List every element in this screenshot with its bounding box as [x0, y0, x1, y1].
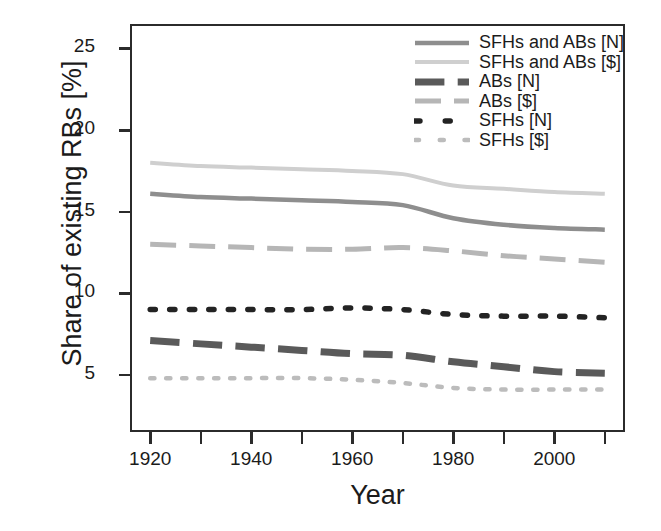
x-tick-label: 1920 — [110, 448, 190, 470]
x-tick-mark-2000 — [553, 432, 556, 444]
legend-label: SFHs [N] — [479, 111, 552, 131]
legend-item-1[interactable]: SFHs and ABs [$] — [414, 53, 624, 73]
x-tick-mark-1970 — [402, 432, 405, 444]
x-tick-mark-1930 — [200, 432, 203, 444]
y-tick-mark — [119, 129, 130, 132]
y-tick-label: 25 — [53, 35, 95, 57]
x-tick-mark-1980 — [452, 432, 455, 444]
legend-swatch-icon — [414, 55, 470, 69]
x-tick-mark-2010 — [604, 432, 607, 444]
series-line-5 — [150, 378, 605, 390]
legend-item-5[interactable]: SFHs [$] — [414, 131, 624, 151]
x-tick-mark-1940 — [250, 432, 253, 444]
y-tick-label: 15 — [53, 199, 95, 221]
legend-item-3[interactable]: ABs [$] — [414, 92, 624, 112]
legend-label: SFHs and ABs [N] — [479, 33, 624, 53]
legend-item-2[interactable]: ABs [N] — [414, 72, 624, 92]
x-tick-mark-1960 — [351, 432, 354, 444]
y-tick-mark — [119, 211, 130, 214]
x-tick-mark-1990 — [503, 432, 506, 444]
legend-item-0[interactable]: SFHs and ABs [N] — [414, 33, 624, 53]
x-tick-mark-1950 — [301, 432, 304, 444]
legend-swatch-icon — [414, 36, 470, 50]
y-tick-label: 20 — [53, 117, 95, 139]
x-tick-label: 1940 — [211, 448, 291, 470]
series-line-2 — [150, 341, 605, 374]
y-tick-mark — [119, 292, 130, 295]
chart-figure: Share of existing RBs [%] 510152025 1920… — [0, 0, 661, 531]
legend-swatch-icon — [414, 75, 470, 89]
y-tick-mark — [119, 374, 130, 377]
y-tick-label: 5 — [53, 362, 95, 384]
legend-label: SFHs [$] — [479, 131, 549, 151]
chart-legend: SFHs and ABs [N]SFHs and ABs [$]ABs [N]A… — [414, 33, 624, 150]
x-tick-label: 1980 — [413, 448, 493, 470]
legend-swatch-icon — [414, 94, 470, 108]
series-line-3 — [150, 244, 605, 262]
legend-label: ABs [$] — [479, 92, 537, 112]
series-line-0 — [150, 194, 605, 230]
legend-label: SFHs and ABs [$] — [479, 53, 621, 73]
x-tick-label: 1960 — [312, 448, 392, 470]
legend-swatch-icon — [414, 114, 470, 128]
x-tick-mark-1920 — [149, 432, 152, 444]
series-line-4 — [150, 308, 605, 318]
legend-label: ABs [N] — [479, 72, 540, 92]
y-tick-mark — [119, 47, 130, 50]
legend-item-4[interactable]: SFHs [N] — [414, 111, 624, 131]
y-tick-label: 10 — [53, 280, 95, 302]
x-axis-title: Year — [130, 480, 625, 511]
x-tick-label: 2000 — [514, 448, 594, 470]
series-line-1 — [150, 163, 605, 194]
legend-swatch-icon — [414, 133, 470, 147]
